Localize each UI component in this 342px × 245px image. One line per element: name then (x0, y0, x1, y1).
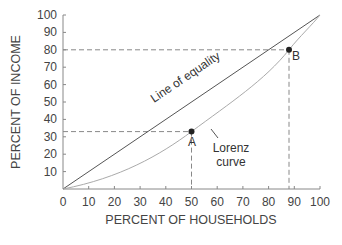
svg-text:40: 40 (44, 112, 58, 126)
svg-text:70: 70 (44, 60, 58, 74)
svg-text:80: 80 (262, 195, 276, 209)
lorenz-leader-line (211, 129, 218, 138)
svg-text:70: 70 (236, 195, 250, 209)
point-b-label: B (292, 49, 300, 63)
svg-text:10: 10 (82, 195, 96, 209)
svg-text:100: 100 (310, 195, 330, 209)
y-axis-title: PERCENT OF INCOME (9, 35, 23, 169)
line-of-equality (63, 15, 320, 189)
y-tick-labels: 10 20 30 40 50 60 70 80 90 100 (37, 8, 57, 179)
svg-text:20: 20 (44, 147, 58, 161)
lorenz-chart: 10 20 30 40 50 60 70 80 90 100 0 10 20 3… (0, 0, 342, 245)
svg-text:60: 60 (44, 78, 58, 92)
svg-text:30: 30 (44, 130, 58, 144)
x-axis-title: PERCENT OF HOUSEHOLDS (105, 213, 276, 227)
x-tick-labels: 0 10 20 30 40 50 60 70 80 90 100 (60, 195, 331, 209)
point-a-label: A (188, 135, 196, 149)
svg-text:0: 0 (60, 195, 67, 209)
svg-text:80: 80 (44, 43, 58, 57)
svg-text:20: 20 (108, 195, 122, 209)
lorenz-label-line1: Lorenz (213, 141, 250, 155)
svg-text:60: 60 (211, 195, 225, 209)
svg-text:10: 10 (44, 165, 58, 179)
svg-text:50: 50 (185, 195, 199, 209)
equality-label: Line of equality (148, 49, 223, 106)
lorenz-label-line2: curve (216, 155, 246, 169)
svg-text:30: 30 (133, 195, 147, 209)
svg-text:90: 90 (44, 25, 58, 39)
svg-text:50: 50 (44, 95, 58, 109)
point-a-marker (189, 129, 195, 135)
svg-text:40: 40 (159, 195, 173, 209)
guide-lines (63, 50, 289, 189)
svg-text:100: 100 (37, 8, 57, 22)
svg-text:90: 90 (288, 195, 302, 209)
